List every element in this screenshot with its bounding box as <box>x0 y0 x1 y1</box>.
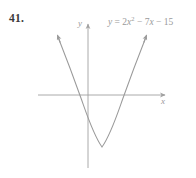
curve-left-arrow-icon <box>57 35 60 43</box>
parabola-curve <box>59 39 146 148</box>
textbook-figure: 41. y = 2x2 − 7x − 15 y x <box>0 0 196 178</box>
curve-right-arrow-icon <box>144 35 147 43</box>
graph-canvas <box>0 0 196 178</box>
